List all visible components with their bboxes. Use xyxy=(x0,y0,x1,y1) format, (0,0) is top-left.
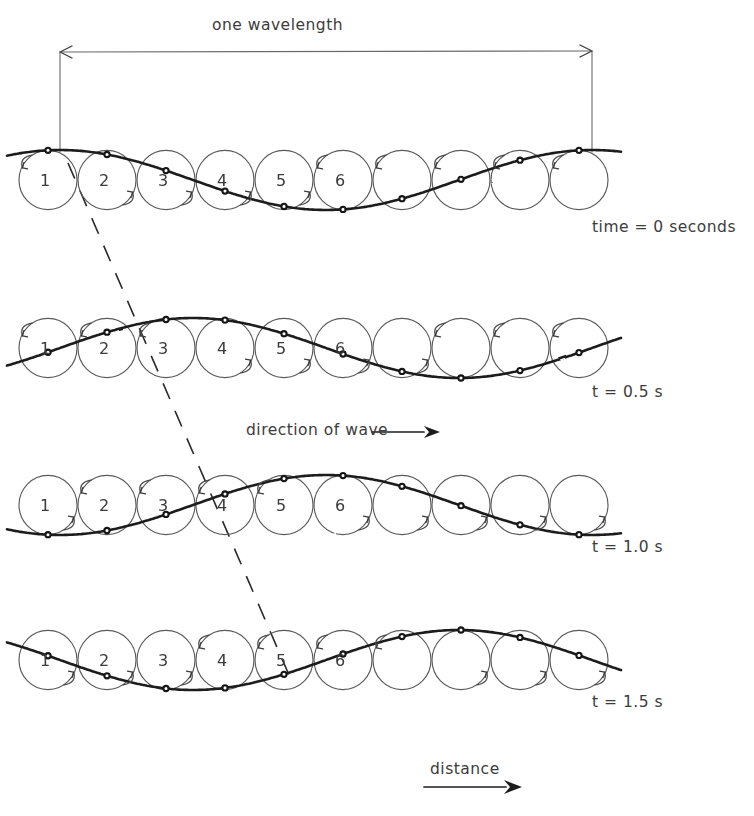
particle-number-label: 5 xyxy=(276,496,286,515)
particle-dot xyxy=(576,350,581,355)
rotation-arrowhead-icon xyxy=(23,330,28,337)
particle-circle xyxy=(550,475,608,534)
particle-number-label: 1 xyxy=(40,171,50,190)
particle-number-label: 3 xyxy=(158,339,168,358)
wave-row-4: 123456 xyxy=(7,627,621,691)
particle-dot xyxy=(399,634,404,639)
particle-dot xyxy=(576,532,581,537)
particle-dot xyxy=(163,317,168,322)
particle-dot xyxy=(517,158,522,163)
rotation-arrowhead-icon xyxy=(200,642,205,649)
rotation-arrowhead-icon xyxy=(554,330,559,337)
particle-dot xyxy=(340,473,345,478)
time-label-row-4: t = 1.5 s xyxy=(592,693,663,711)
particle-dot xyxy=(458,375,463,380)
wave-rows-layer: 123456123456123456123456 xyxy=(7,148,621,691)
time-label-row-1: time = 0 seconds xyxy=(592,218,736,236)
wave-row-2: 123456 xyxy=(7,317,621,381)
particle-dot xyxy=(576,653,581,658)
wave-row-3: 123456 xyxy=(7,473,621,537)
rotation-arrowhead-icon xyxy=(423,516,428,523)
particle-number-label: 5 xyxy=(276,171,286,190)
particle-number-label: 4 xyxy=(217,496,227,515)
rotation-arrowhead-icon xyxy=(69,671,74,678)
rotation-arrowhead-icon xyxy=(259,642,264,649)
particle-number-label: 1 xyxy=(40,339,50,358)
particle-circle xyxy=(550,630,608,689)
particle-number-label: 6 xyxy=(335,651,345,670)
rotation-arrowhead-icon xyxy=(69,516,74,523)
particle-dot xyxy=(576,148,581,153)
rotation-arrowhead-icon xyxy=(318,642,323,649)
rotation-arrowhead-icon xyxy=(259,487,264,494)
wavelength-label: one wavelength xyxy=(212,16,343,34)
particle-number-label: 2 xyxy=(99,496,109,515)
rotation-arrowhead-icon xyxy=(246,359,251,366)
rotation-arrowhead-icon xyxy=(600,671,605,678)
rotation-arrowhead-icon xyxy=(23,162,28,169)
rotation-arrowhead-icon xyxy=(554,162,559,169)
rotation-arrowhead-icon xyxy=(600,516,605,523)
particle-dot xyxy=(281,331,286,336)
particle-circle xyxy=(550,150,608,209)
particle-dot xyxy=(45,532,50,537)
particle-dot xyxy=(163,686,168,691)
particle-dot xyxy=(399,196,404,201)
particle-dot xyxy=(281,204,286,209)
rotation-arrowhead-icon xyxy=(364,516,369,523)
particle-dot xyxy=(517,635,522,640)
rotation-arrowhead-icon xyxy=(305,359,310,366)
distance-arrow-icon xyxy=(424,780,522,794)
particle-circle xyxy=(432,630,490,689)
particle-number-label: 5 xyxy=(276,651,286,670)
particle-number-label: 4 xyxy=(217,651,227,670)
particle-dot xyxy=(281,672,286,677)
particle-number-label: 6 xyxy=(335,496,345,515)
particle-dot xyxy=(399,484,404,489)
particle-number-label: 6 xyxy=(335,171,345,190)
rotation-arrowhead-icon xyxy=(436,162,441,169)
particle-dot xyxy=(281,476,286,481)
rotation-arrowhead-icon xyxy=(128,671,133,678)
rotation-arrowhead-icon xyxy=(82,487,87,494)
rotation-arrowhead-icon xyxy=(377,162,382,169)
rotation-arrowhead-icon xyxy=(495,330,500,337)
rotation-arrowhead-icon xyxy=(318,162,323,169)
particle-dot xyxy=(104,330,109,335)
rotation-arrowhead-icon xyxy=(141,330,146,337)
particle-dot xyxy=(45,148,50,153)
rotation-arrowhead-icon xyxy=(482,516,487,523)
rotation-arrowhead-icon xyxy=(141,487,146,494)
particle-number-label: 2 xyxy=(99,171,109,190)
particle-number-label: 3 xyxy=(158,651,168,670)
rotation-arrowhead-icon xyxy=(541,671,546,678)
particle-dot xyxy=(104,152,109,157)
particle-number-label: 5 xyxy=(276,339,286,358)
particle-dot xyxy=(340,207,345,212)
time-label-row-2: t = 0.5 s xyxy=(592,383,663,401)
particle-dot xyxy=(104,673,109,678)
particle-number-label: 4 xyxy=(217,171,227,190)
rotation-arrowhead-icon xyxy=(200,487,205,494)
rotation-arrowhead-icon xyxy=(82,330,87,337)
particle-dot xyxy=(399,369,404,374)
particle-dot xyxy=(517,368,522,373)
particle-number-label: 1 xyxy=(40,651,50,670)
particle-dot xyxy=(104,528,109,533)
rotation-arrowhead-icon xyxy=(305,191,310,198)
rotation-arrowhead-icon xyxy=(128,191,133,198)
wavelength-dimension xyxy=(60,45,592,152)
wave-row-1: 123456 xyxy=(7,148,621,212)
particle-dot xyxy=(222,685,227,690)
particle-dot xyxy=(458,627,463,632)
rotation-arrowhead-icon xyxy=(187,671,192,678)
rotation-arrowhead-icon xyxy=(541,516,546,523)
direction-of-wave-label: direction of wave xyxy=(246,421,388,439)
rotation-arrowhead-icon xyxy=(436,330,441,337)
particle-number-label: 4 xyxy=(217,339,227,358)
particle-dot xyxy=(517,522,522,527)
particle-number-label: 2 xyxy=(99,651,109,670)
particle-dot xyxy=(458,503,463,508)
particle-number-label: 6 xyxy=(335,339,345,358)
diagram-canvas: 123456123456123456123456 one wavelength … xyxy=(0,0,754,816)
